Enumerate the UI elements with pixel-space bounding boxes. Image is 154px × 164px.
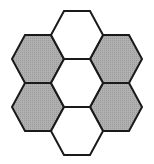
hexagon-cells [12, 11, 142, 155]
hexagon-diagram [0, 0, 154, 164]
